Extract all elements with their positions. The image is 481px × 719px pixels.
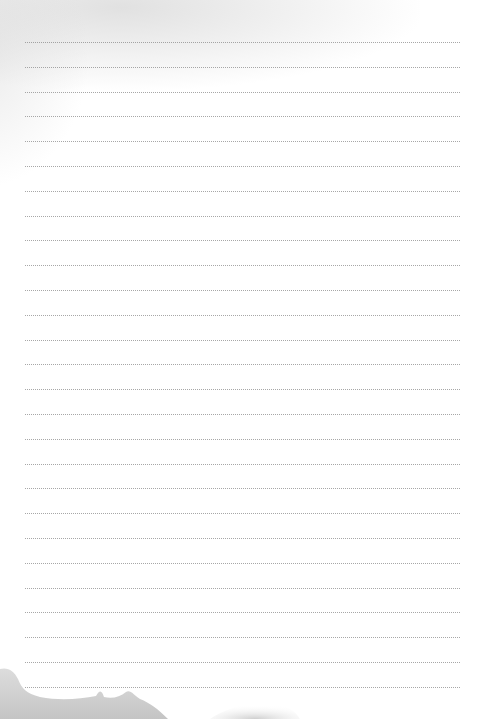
ruled-line [25, 92, 460, 93]
ruled-line [25, 67, 460, 68]
ruled-line [25, 563, 460, 564]
ruled-line [25, 290, 460, 291]
ruled-line [25, 662, 460, 663]
ruled-line [25, 588, 460, 589]
notepaper-page [0, 0, 481, 719]
ruled-line [25, 166, 460, 167]
ruled-line [25, 488, 460, 489]
ruled-lines [0, 0, 481, 719]
ruled-line [25, 538, 460, 539]
ruled-line [25, 340, 460, 341]
ruled-line [25, 439, 460, 440]
ruled-line [25, 687, 460, 688]
ruled-line [25, 191, 460, 192]
ruled-line [25, 464, 460, 465]
ruled-line [25, 513, 460, 514]
ruled-line [25, 141, 460, 142]
ruled-line [25, 315, 460, 316]
ruled-line [25, 364, 460, 365]
ruled-line [25, 216, 460, 217]
ruled-line [25, 637, 460, 638]
ruled-line [25, 414, 460, 415]
ruled-line [25, 240, 460, 241]
ruled-line [25, 389, 460, 390]
ruled-line [25, 116, 460, 117]
ruled-line [25, 265, 460, 266]
ruled-line [25, 612, 460, 613]
ruled-line [25, 42, 460, 43]
